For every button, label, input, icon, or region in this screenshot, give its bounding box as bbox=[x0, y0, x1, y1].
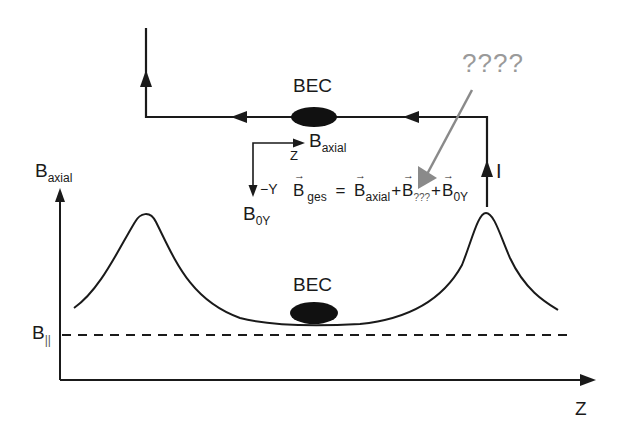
y-axis-label: Baxial bbox=[35, 160, 72, 182]
current-arrow-left-1 bbox=[231, 111, 247, 123]
bec-in-trap bbox=[290, 302, 338, 324]
baseline-label: B|| bbox=[32, 322, 51, 344]
current-arrow-left-2 bbox=[403, 111, 419, 123]
current-label: I bbox=[496, 160, 502, 183]
z-legend: Z bbox=[290, 148, 298, 163]
neg-y-legend: −Y bbox=[260, 181, 278, 197]
bec-label-wire: BEC bbox=[293, 75, 332, 97]
x-axis-label: Z bbox=[575, 398, 587, 420]
field-equation: Bges = Baxial+B???+B0Y bbox=[293, 181, 468, 201]
diagram-canvas bbox=[0, 0, 634, 438]
unknown-label: ???? bbox=[462, 48, 524, 79]
current-arrow-up-left bbox=[140, 70, 152, 87]
b-ges-term: B bbox=[293, 181, 304, 201]
current-arrow-up-right bbox=[481, 160, 493, 177]
b-0y-legend: B0Y bbox=[243, 203, 270, 225]
bec-label-trap: BEC bbox=[293, 274, 332, 296]
bec-on-wire bbox=[291, 107, 337, 127]
b-axial-legend: Baxial bbox=[309, 130, 346, 152]
